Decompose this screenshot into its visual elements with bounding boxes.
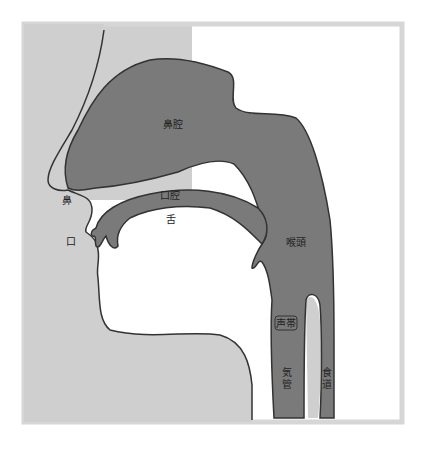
label-larynx: 喉頭 [286, 237, 306, 248]
label-oral-cavity: 口腔 [160, 189, 180, 201]
label-nose: 鼻 [62, 194, 72, 206]
vocal-tract-diagram: 鼻腔 鼻 口腔 舌 口 喉頭 声帯 気 管 食 道 [0, 0, 424, 449]
label-trachea-2: 管 [282, 378, 292, 390]
esophagus-gap [306, 297, 321, 418]
label-trachea-1: 気 [282, 366, 292, 378]
label-esophagus-2: 道 [322, 378, 332, 390]
label-nasal-cavity: 鼻腔 [163, 118, 183, 130]
label-vocal-cords: 声帯 [276, 317, 296, 329]
label-esophagus-1: 食 [322, 366, 332, 378]
label-mouth: 口 [66, 236, 76, 247]
label-tongue: 舌 [166, 214, 176, 225]
